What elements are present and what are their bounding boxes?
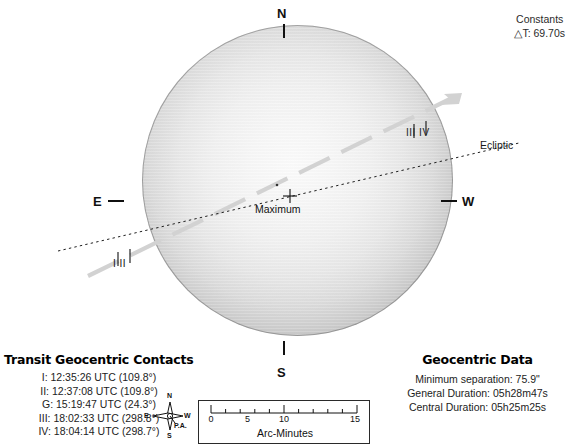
scale-tick-label: 15 [350,414,360,424]
compass-north-label: N [167,392,172,399]
scale-tick-label: 10 [279,414,289,424]
scale-tick-label: 5 [245,414,250,424]
ecliptic-line [58,143,519,251]
cardinal-west: W [462,194,474,209]
list-item: General Duration: 05h28m47s [382,386,573,400]
ecliptic-label: Ecliptic [480,139,513,151]
cardinal-south-tick [283,341,285,355]
scale-bar-caption: Arc-Minutes [199,427,371,439]
transit-diagram-page: Constants △T: 69.70s N S E W III IV I II [0,0,573,447]
compass-rose: N S E W P.A. [144,392,196,442]
cardinal-south: S [277,365,286,380]
transit-contacts-title: Transit Geocentric Contacts [4,352,194,367]
cardinal-west-tick [441,200,457,202]
list-item: Central Duration: 05h25m25s [382,400,573,414]
scale-bar: 0 5 10 15 Arc-Minutes [198,400,370,444]
list-item: I: 12:35:26 UTC (109.8°) [4,371,194,385]
cardinal-north: N [277,6,286,21]
geocentric-data-title: Geocentric Data [382,352,573,367]
transit-path-line [88,98,452,276]
cardinal-east: E [93,194,102,209]
cardinal-north-tick [283,24,285,38]
cardinal-east-tick [108,200,124,202]
maximum-center-dot [276,184,279,187]
compass-south-label: S [167,432,172,439]
exit-contacts-label: III IV [406,127,430,138]
entry-contacts-label: I II [113,258,126,269]
compass-position-angle-label: P.A. [174,422,187,429]
compass-west-label: W [184,412,191,419]
scale-bar-tick-labels: 0 5 10 15 [199,414,371,426]
compass-east-label: E [144,412,149,419]
scale-tick-label: 0 [208,414,213,424]
maximum-label: Maximum [255,203,301,215]
geocentric-data-block: Geocentric Data Minimum separation: 75.9… [382,352,573,414]
list-item: Minimum separation: 75.9" [382,372,573,386]
geocentric-data-rows: Minimum separation: 75.9" General Durati… [382,372,573,414]
